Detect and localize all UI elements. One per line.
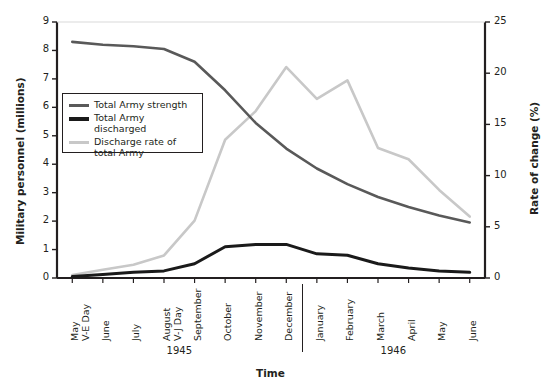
x-axis-month-label: May — [436, 321, 447, 341]
x-axis-month-label: July — [130, 324, 141, 341]
y-axis-left-tick: 1 — [23, 243, 49, 254]
chart-figure: Military personnel (millions) Rate of ch… — [0, 0, 542, 387]
y-axis-right-tick: 20 — [494, 66, 520, 77]
x-axis-month-label: January — [314, 305, 325, 341]
legend-label-discharged: Total Army discharged — [94, 112, 146, 134]
x-axis-month-label: October — [222, 303, 233, 341]
legend-label-rate-line1: Discharge rate of — [94, 136, 176, 147]
y-axis-left-tick: 2 — [23, 214, 49, 225]
x-axis-month-label: February — [344, 299, 355, 341]
x-axis-year-label: 1945 — [164, 345, 194, 356]
y-axis-left-tick: 7 — [23, 72, 49, 83]
legend-swatch-discharged — [69, 117, 89, 121]
y-axis-right-tick: 0 — [494, 271, 520, 282]
x-axis-month-label: April — [406, 319, 417, 341]
x-axis-month-label: V-J Day — [172, 307, 183, 341]
y-axis-right-tick: 10 — [494, 169, 520, 180]
x-axis-month-label: March — [375, 312, 386, 341]
y-axis-left-tick: 4 — [23, 157, 49, 168]
x-axis-month-label: August — [161, 308, 172, 341]
x-axis-month-label: November — [253, 292, 264, 341]
x-axis-month-label: December — [283, 292, 294, 341]
y-axis-left-tick: 8 — [23, 43, 49, 54]
y-axis-left-tick: 6 — [23, 100, 49, 111]
y-axis-right-tick: 15 — [494, 117, 520, 128]
x-axis-month-label: June — [467, 320, 478, 341]
legend-item-total-army-discharged: Total Army discharged — [69, 112, 196, 134]
legend-swatch-rate — [69, 141, 89, 144]
legend-item-total-army-strength: Total Army strength — [69, 99, 196, 110]
x-axis-month-label: June — [100, 320, 111, 341]
y-axis-left-tick: 3 — [23, 186, 49, 197]
y-axis-left-tick: 5 — [23, 129, 49, 140]
x-axis-year-label: 1946 — [378, 345, 408, 356]
legend-swatch-strength — [69, 104, 89, 107]
x-axis-month-label: V-E Day — [80, 304, 91, 341]
x-axis-month-label: September — [192, 288, 203, 341]
chart-legend: Total Army strength Total Army discharge… — [62, 93, 203, 153]
y-axis-left-tick: 9 — [23, 15, 49, 26]
year-separator — [302, 284, 303, 352]
legend-label-strength: Total Army strength — [94, 99, 187, 110]
y-axis-right-tick: 5 — [494, 220, 520, 231]
legend-item-discharge-rate: Discharge rate of total Army — [69, 136, 196, 158]
y-axis-right-tick: 25 — [494, 15, 520, 26]
legend-label-rate-line2: total Army — [94, 147, 144, 158]
y-axis-left-tick: 0 — [23, 271, 49, 282]
x-axis-month-label: May — [69, 321, 80, 341]
